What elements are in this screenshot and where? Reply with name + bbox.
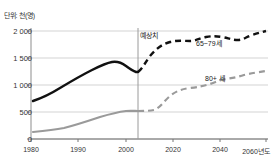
series-label-80plus: 80+ 세 [205,73,225,83]
population-projection-chart: 단위: 천(명) 2 000 [0,0,279,164]
chart-canvas [0,0,279,164]
forecast-annotation-label: 예상치 [140,30,158,40]
x-axis-tick-label: 2060년도 [242,146,270,156]
series-label-65-79: 65~79세 [196,38,222,48]
x-axis-tick-label: 2000 [118,146,134,153]
y-axis-tick-label: 500 [2,108,32,117]
y-axis-labels: 2 000 1 500 1 000 500 0 [0,0,32,164]
y-axis-tick-label: 1 000 [2,81,32,90]
series-80plus-actual-line [33,111,138,132]
series-80plus-forecast-line [138,71,266,111]
series-65-79-actual-line [33,62,138,101]
y-axis-tick-label: 2 000 [2,27,32,36]
x-axis-tick-label: 2020 [165,146,181,153]
x-axis-tick-label: 1980 [23,146,39,153]
y-axis-tick-label: 1 500 [2,54,32,63]
x-axis-tick-label: 2040 [212,146,228,153]
y-axis-tick-label: 0 [2,135,32,144]
x-axis-tick-label: 1990 [70,146,86,153]
